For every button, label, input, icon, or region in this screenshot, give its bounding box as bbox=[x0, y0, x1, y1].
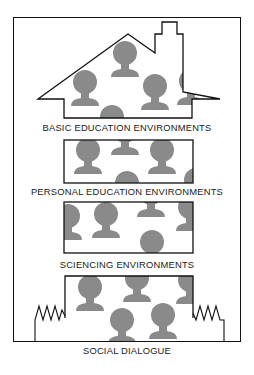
label-social-dialogue: SOCIAL DIALOGUE bbox=[0, 345, 254, 356]
right-spring-icon bbox=[193, 306, 224, 341]
social-people bbox=[76, 266, 204, 344]
label-personal-education: PERSONAL EDUCATION ENVIRONMENTS bbox=[0, 186, 254, 197]
label-basic-education: BASIC EDUCATION ENVIRONMENTS bbox=[0, 122, 254, 133]
label-sciencing: SCIENCING ENVIRONMENTS bbox=[0, 259, 254, 270]
left-spring-icon bbox=[35, 306, 65, 341]
sciencing-box bbox=[64, 202, 193, 253]
